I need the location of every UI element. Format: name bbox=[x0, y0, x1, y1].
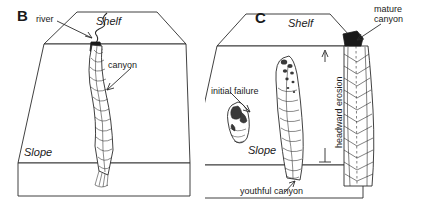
label-headward-erosion: headward erosion bbox=[334, 76, 344, 148]
panel-b-diagram bbox=[0, 0, 205, 206]
panel-letter-b: B bbox=[17, 11, 28, 21]
label-river: river bbox=[36, 14, 54, 24]
panel-letter-c: C bbox=[255, 13, 266, 23]
label-mature-canyon-line1: mature bbox=[374, 4, 402, 14]
label-canyon: canyon bbox=[108, 60, 137, 70]
label-shelf-b: Shelf bbox=[96, 16, 121, 26]
label-initial-failure: initial failure bbox=[211, 86, 259, 96]
panel-c-diagram bbox=[205, 0, 435, 206]
label-slope-b: Slope bbox=[24, 147, 52, 157]
figure-container: B river Shelf canyon Slope bbox=[0, 0, 435, 206]
label-shelf-c: Shelf bbox=[288, 18, 313, 28]
label-mature-canyon-line2: canyon bbox=[374, 14, 403, 24]
mature-canyon-leader bbox=[357, 24, 381, 40]
label-slope-c: Slope bbox=[248, 145, 276, 155]
label-youthful-canyon: youthful canyon bbox=[240, 186, 303, 196]
